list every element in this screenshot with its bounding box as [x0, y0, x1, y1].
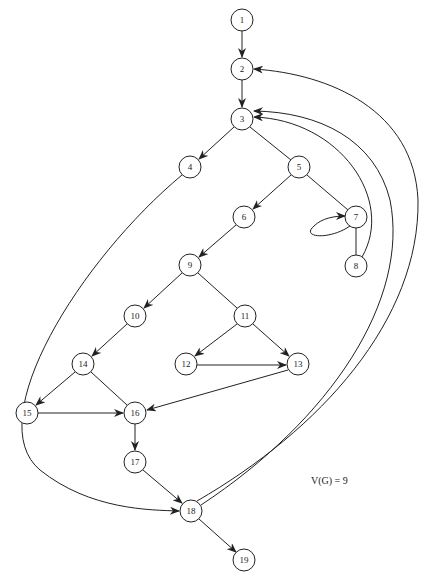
- svg-text:10: 10: [131, 311, 141, 321]
- svg-text:4: 4: [188, 162, 193, 172]
- edge-18-19: [199, 519, 236, 552]
- node-7: 7: [345, 206, 367, 228]
- node-13: 13: [287, 353, 309, 375]
- svg-text:17: 17: [131, 457, 141, 467]
- node-11: 11: [234, 305, 256, 327]
- edge-4-18: [22, 175, 182, 511]
- svg-text:6: 6: [242, 212, 247, 222]
- svg-text:5: 5: [297, 162, 302, 172]
- edge-3-4: [199, 127, 234, 159]
- node-17: 17: [124, 451, 146, 473]
- svg-text:14: 14: [79, 359, 89, 369]
- edge-13-16: [147, 370, 288, 410]
- svg-text:1: 1: [240, 15, 245, 25]
- node-16: 16: [124, 402, 146, 424]
- edge-3-5: [250, 127, 291, 160]
- svg-text:8: 8: [354, 261, 359, 271]
- edge-14-15: [36, 372, 75, 405]
- edge-11-13: [253, 324, 289, 356]
- edge-11-12: [195, 324, 237, 356]
- nodes: 1 2 3 4 5 6 7 8 9 10 11 12 13 14 15 16 1…: [16, 9, 367, 571]
- node-4: 4: [179, 156, 201, 178]
- svg-text:11: 11: [241, 311, 250, 321]
- control-flow-graph: 1 2 3 4 5 6 7 8 9 10 11 12 13 14 15 16 1…: [0, 0, 423, 581]
- edge-8-3: [254, 117, 372, 257]
- node-3: 3: [231, 108, 253, 130]
- edge-9-11: [198, 273, 237, 308]
- edge-7-7-loop: [310, 216, 350, 236]
- svg-text:19: 19: [240, 555, 250, 565]
- edges: [22, 31, 418, 552]
- node-12: 12: [175, 353, 197, 375]
- svg-text:13: 13: [294, 359, 304, 369]
- node-15: 15: [16, 402, 38, 424]
- edge-17-18: [143, 470, 182, 503]
- cyclomatic-complexity-label: V(G) = 9: [311, 475, 348, 487]
- node-10: 10: [124, 305, 146, 327]
- node-2: 2: [231, 58, 253, 80]
- edge-5-7: [307, 175, 348, 210]
- svg-text:18: 18: [187, 506, 197, 516]
- svg-text:2: 2: [240, 64, 245, 74]
- edge-5-6: [253, 175, 291, 209]
- node-19: 19: [233, 549, 255, 571]
- node-9: 9: [179, 254, 201, 276]
- edge-14-16: [91, 372, 127, 405]
- node-5: 5: [288, 156, 310, 178]
- edge-6-9: [199, 225, 236, 257]
- edge-10-14: [92, 324, 127, 356]
- svg-text:3: 3: [240, 114, 245, 124]
- node-18: 18: [180, 500, 202, 522]
- node-1: 1: [231, 9, 253, 31]
- svg-text:16: 16: [131, 408, 141, 418]
- node-14: 14: [72, 353, 94, 375]
- svg-text:9: 9: [188, 260, 193, 270]
- svg-text:15: 15: [23, 408, 33, 418]
- svg-text:12: 12: [182, 359, 191, 369]
- node-6: 6: [233, 206, 255, 228]
- node-8: 8: [345, 255, 367, 277]
- edge-9-10: [144, 273, 182, 308]
- svg-text:7: 7: [354, 212, 359, 222]
